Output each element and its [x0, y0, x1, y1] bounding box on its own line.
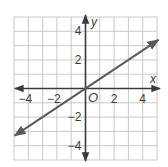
x-tick-label: −2 [47, 92, 61, 106]
x-tick-label: 2 [111, 92, 118, 106]
y-tick-label: −2 [68, 110, 82, 124]
y-tick-label: −4 [68, 139, 82, 153]
y-tick-label: 4 [75, 24, 82, 38]
y-tick-label: 2 [75, 53, 82, 67]
x-tick-label: −4 [18, 92, 32, 106]
x-axis-label: x [149, 72, 157, 86]
origin-label: O [88, 90, 98, 105]
coordinate-plane: −4−22442−2−4 x y O [0, 0, 168, 167]
x-tick-label: 4 [139, 92, 146, 106]
y-axis-label: y [90, 15, 98, 29]
